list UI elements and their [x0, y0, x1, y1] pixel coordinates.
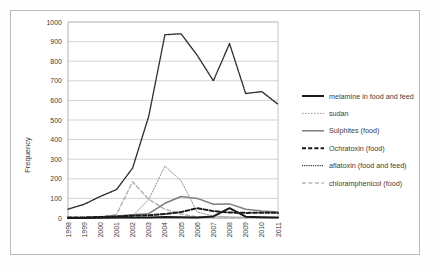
legend-label: Ochratoxin (food) — [329, 144, 385, 153]
x-tick-label: 2010 — [258, 222, 265, 238]
x-tick-label: 2004 — [161, 222, 168, 238]
y-tick-label: 800 — [50, 58, 62, 65]
chart-figure: 10009008007006005004003002001000 1998199… — [0, 0, 438, 270]
y-tick-label: 0 — [58, 215, 62, 222]
x-tick-label: 2009 — [242, 222, 249, 238]
series-line — [68, 34, 278, 209]
x-tick-label: 2003 — [145, 222, 152, 238]
y-tick-label: 600 — [50, 97, 62, 104]
y-tick-label: 1000 — [46, 19, 62, 26]
y-tick-label: 500 — [50, 117, 62, 124]
gridlines — [68, 22, 278, 198]
y-tick-label: 400 — [50, 136, 62, 143]
legend-label: aflatoxin (food and feed) — [329, 161, 407, 170]
y-tick-label: 900 — [50, 38, 62, 45]
x-tick-label: 2008 — [226, 222, 233, 238]
x-axis-tick-labels: 1998199920002001200220032004200520062007… — [65, 222, 282, 238]
legend-label: Sulphites (food) — [329, 126, 379, 135]
legend-label: sudan — [329, 109, 349, 118]
legend-label: chloramphenicol (food) — [329, 179, 402, 188]
x-tick-label: 2006 — [194, 222, 201, 238]
x-tick-label: 2000 — [97, 222, 104, 238]
y-axis-tick-labels: 10009008007006005004003002001000 — [46, 19, 62, 222]
series-line — [68, 166, 278, 218]
y-tick-label: 200 — [50, 175, 62, 182]
y-tick-label: 100 — [50, 195, 62, 202]
line-chart: 10009008007006005004003002001000 1998199… — [0, 0, 438, 270]
x-tick-label: 1998 — [65, 222, 72, 238]
series-line — [68, 196, 278, 217]
x-tick-label: 2002 — [129, 222, 136, 238]
x-tick-label: 2005 — [178, 222, 185, 238]
x-tick-label: 2011 — [275, 222, 282, 237]
x-tick-label: 2001 — [113, 222, 120, 238]
y-tick-label: 300 — [50, 156, 62, 163]
y-axis-title: Frequency — [23, 137, 32, 173]
legend-label: melamine in food and feed — [329, 92, 414, 101]
x-tick-label: 2007 — [210, 222, 217, 238]
y-axis-title-text: Frequency — [23, 137, 32, 173]
x-tick-label: 1999 — [81, 222, 88, 238]
y-tick-label: 700 — [50, 77, 62, 84]
chart-legend: melamine in food and feedsudanSulphites … — [302, 92, 414, 188]
